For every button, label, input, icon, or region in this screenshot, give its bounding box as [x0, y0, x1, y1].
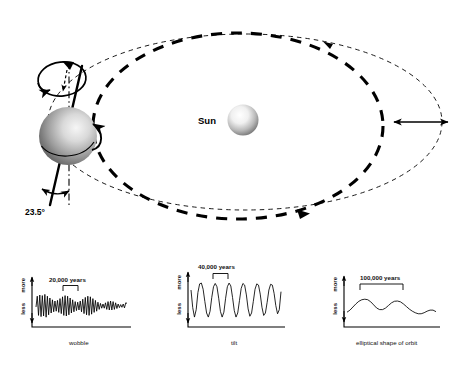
eccentricity-axis-less: less [332, 303, 338, 315]
eccentricity-waveform [347, 299, 436, 314]
orbital-cycles-figure: Sun 23.5° more less 20,000 years wobble … [0, 0, 467, 365]
eccentricity-period-bracket [360, 284, 403, 290]
eccentricity-period-label: 100,000 years [360, 275, 400, 281]
eccentricity-axis-more: more [332, 277, 338, 292]
chart-eccentricity [0, 0, 467, 365]
eccentricity-caption: elliptical shape of orbit [356, 340, 417, 346]
